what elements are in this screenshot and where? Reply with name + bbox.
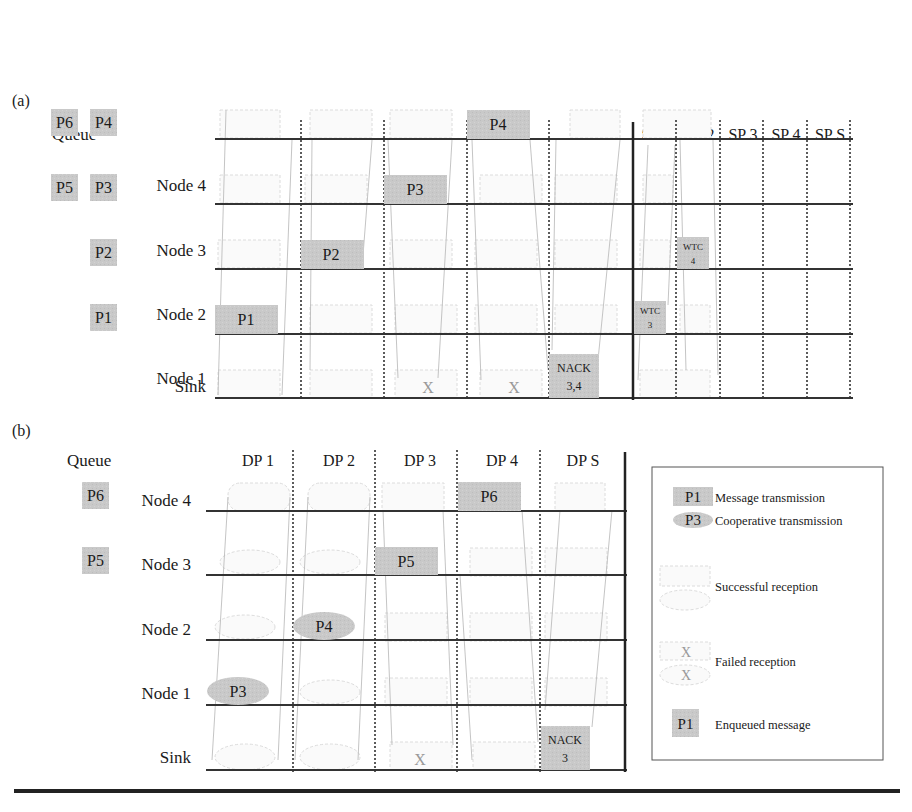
failed-x: X bbox=[508, 379, 520, 396]
legend: P1 Message transmission P3 Cooperative t… bbox=[652, 467, 883, 760]
reception-boxes bbox=[218, 110, 711, 398]
queue-title: Queue bbox=[67, 451, 111, 470]
col-header: SP 3 bbox=[728, 126, 757, 143]
wtc-label-line2: 4 bbox=[691, 256, 696, 266]
column-headers: DP 1 DP 2 DP 3 DP 4 DP S bbox=[242, 452, 599, 469]
wtc-label-line1: WTC bbox=[640, 306, 660, 316]
failed-x: X bbox=[422, 379, 434, 396]
legend-symbol: P3 bbox=[685, 512, 701, 528]
transmission-label: P3 bbox=[407, 181, 424, 198]
col-header: DP 3 bbox=[404, 452, 436, 469]
failed-x: X bbox=[681, 645, 691, 660]
row-label: Node 4 bbox=[141, 491, 191, 510]
queue-item: P2 bbox=[95, 244, 112, 261]
legend-symbol: P1 bbox=[678, 716, 694, 732]
col-header: DP S bbox=[567, 452, 600, 469]
row-label: Sink bbox=[175, 377, 207, 396]
queue-item: P6 bbox=[56, 114, 73, 131]
nack-label-line2: 3,4 bbox=[567, 379, 582, 393]
panel-a: (a) Queue DP 1 DP 2 DP 3 DP 4 DP S SP 1 … bbox=[12, 92, 853, 400]
transmission-label: P2 bbox=[323, 246, 340, 263]
transmissions: P1 P2 P3 P4 NACK 3,4 WTC 3 WTC 4 bbox=[215, 110, 709, 398]
transmission-label: P1 bbox=[238, 311, 255, 328]
col-header: DP 4 bbox=[486, 452, 518, 469]
col-header: SP 4 bbox=[771, 126, 800, 143]
legend-label: Successful reception bbox=[715, 580, 819, 594]
row-label: Node 4 bbox=[156, 176, 206, 195]
row-labels: Node 4 Node 3 Node 2 Node 1 Sink bbox=[141, 491, 191, 767]
row-label: Node 2 bbox=[141, 620, 191, 639]
row-label: Sink bbox=[160, 748, 192, 767]
panel-b: (b) Queue DP 1 DP 2 DP 3 DP 4 DP S Node … bbox=[12, 422, 627, 772]
wtc-label-line1: WTC bbox=[683, 242, 703, 252]
legend-symbol: P1 bbox=[685, 489, 701, 505]
queue-item: P5 bbox=[87, 552, 104, 569]
row-label: Node 3 bbox=[156, 241, 206, 260]
legend-label: Cooperative transmission bbox=[715, 514, 843, 528]
transmission-label: P3 bbox=[230, 683, 247, 700]
failed-x: X bbox=[414, 751, 426, 768]
legend-label: Message transmission bbox=[715, 491, 826, 505]
nack-label-line2: 3 bbox=[562, 751, 568, 765]
nack-label-line1: NACK bbox=[557, 361, 591, 375]
queue-item: P4 bbox=[95, 114, 112, 131]
col-header: DP 2 bbox=[323, 452, 355, 469]
wtc-label-line2: 3 bbox=[648, 320, 653, 330]
diagram-canvas: (a) Queue DP 1 DP 2 DP 3 DP 4 DP S SP 1 … bbox=[0, 0, 912, 812]
transmission-label: P4 bbox=[490, 116, 507, 133]
legend-item-cooperative: P3 Cooperative transmission bbox=[673, 512, 843, 528]
transmission-label: P6 bbox=[481, 488, 498, 505]
queue-item: P5 bbox=[56, 179, 73, 196]
row-label: Node 1 bbox=[141, 684, 191, 703]
failed-x: X bbox=[681, 668, 691, 683]
legend-label: Failed reception bbox=[715, 655, 797, 669]
row-label: Node 2 bbox=[156, 305, 206, 324]
row-label: Node 3 bbox=[141, 555, 191, 574]
col-header: DP 1 bbox=[242, 452, 274, 469]
nack-label-line1: NACK bbox=[548, 733, 582, 747]
queue-item: P3 bbox=[95, 179, 112, 196]
failed-receptions: X bbox=[414, 751, 426, 768]
legend-label: Enqueued message bbox=[715, 718, 811, 732]
panel-a-label: (a) bbox=[12, 92, 30, 110]
transmission-label: P4 bbox=[316, 618, 333, 635]
transmission-label: P5 bbox=[398, 553, 415, 570]
queue-item: P6 bbox=[87, 487, 104, 504]
row-labels: Node 4 Node 3 Node 2 Node 1 Sink bbox=[156, 176, 206, 396]
panel-b-label: (b) bbox=[12, 422, 31, 440]
queue-item: P1 bbox=[95, 309, 112, 326]
queue-items: P6 P5 bbox=[82, 482, 109, 574]
col-header: SP S bbox=[815, 126, 845, 143]
